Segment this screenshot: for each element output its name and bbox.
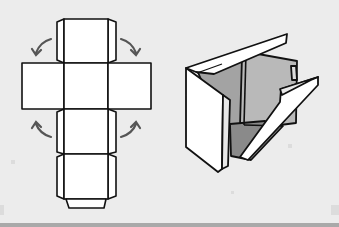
net-flap (108, 154, 116, 199)
net-face-right (108, 63, 151, 109)
bottom-bar (0, 223, 339, 227)
arrow-icon-bottom-left (32, 122, 51, 137)
net-flap (108, 109, 116, 154)
background-specks (0, 144, 339, 215)
net-flap (57, 19, 64, 63)
net-flap (57, 154, 64, 199)
arrow-icon-top-right (121, 39, 140, 55)
net-face-bottom (64, 154, 108, 199)
net-tab (66, 199, 106, 208)
cube-net (22, 19, 151, 208)
arrow-icon-top-left (32, 39, 51, 55)
folded-box (186, 34, 318, 172)
box-left-panel-edge (222, 95, 230, 169)
arrow-icon-bottom-right (121, 122, 140, 137)
net-face-lower (64, 109, 108, 154)
net-face-top (64, 19, 108, 63)
net-flap (57, 109, 64, 154)
net-face-center (64, 63, 108, 109)
diagram-canvas (0, 0, 339, 227)
box-inner-lip (291, 66, 297, 80)
net-flap (108, 19, 116, 63)
net-face-left (22, 63, 64, 109)
